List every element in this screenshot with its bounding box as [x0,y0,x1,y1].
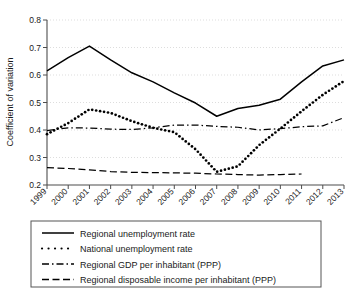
data-dot [194,148,197,151]
data-dot [49,131,52,134]
data-dot [331,87,334,90]
data-dot [235,165,238,168]
data-dot [60,125,63,128]
data-dot [271,134,274,137]
data-dot [261,141,264,144]
data-dot [250,152,253,155]
data-dot [168,130,171,133]
y-axis-title: Coefficient of variation [5,58,15,147]
data-dot [290,119,293,122]
data-dot [210,165,213,168]
data-dot [296,114,299,117]
data-dot [74,117,77,120]
data-dot [129,119,132,122]
chart-legend: Regional unemployment rate National unem… [31,221,321,287]
y-tick-label: 0.8 [29,15,41,25]
chart-figure: 0.8 0.7 0.6 0.5 0.4 0.3 0.2 Coefficient … [0,0,352,304]
data-dot [95,109,98,112]
data-dot [184,140,187,143]
data-dot [91,108,94,111]
data-dot [103,110,106,113]
data-dot [341,81,344,84]
data-dot [305,106,308,109]
data-dot [302,109,305,112]
data-dot [318,96,321,99]
data-dot [114,114,117,117]
data-dot [238,163,241,166]
legend-label: National unemployment rate [80,244,193,254]
legend-label: Regional GDP per inhabitant (PPP) [80,260,221,270]
data-dot [283,124,286,127]
data-dot [87,109,90,112]
data-dot [164,129,167,132]
legend-label: Regional disposable income per inhabitan… [80,275,276,285]
data-dot [122,116,125,119]
data-dot [172,131,175,134]
data-dot [144,124,147,127]
data-dot [265,138,268,141]
coefficient-of-variation-line-chart: 0.8 0.7 0.6 0.5 0.4 0.3 0.2 Coefficient … [0,0,352,304]
data-dot [258,143,261,146]
data-dot [63,124,66,127]
data-dot [328,89,331,92]
data-dot [334,85,337,88]
data-dot [160,128,163,131]
data-dot [247,155,250,158]
data-dot [253,149,256,152]
data-dot [175,133,178,136]
data-dot [241,160,244,163]
legend-label: Regional unemployment rate [80,229,195,239]
data-dot [118,115,121,118]
data-dot [202,156,205,159]
data-dot [156,127,159,130]
data-dot [255,146,258,149]
data-dot [224,168,227,171]
data-dot [125,118,128,121]
data-dot [111,112,114,115]
data-dot [141,123,144,126]
data-dot [84,111,87,114]
data-dot [137,122,140,125]
data-dot [227,167,230,170]
data-dot [315,99,318,102]
data-dot [191,145,194,148]
data-dot [178,135,181,138]
data-dot [99,110,102,113]
data-dot [187,143,190,146]
data-dot [80,113,83,116]
data-dot [213,168,216,171]
data-dot [231,166,234,169]
data-dot [308,104,311,107]
data-dot [67,122,70,125]
data-dot [199,153,202,156]
data-dot [321,94,324,97]
y-tick-label: 0.5 [29,98,41,108]
data-dot [207,162,210,165]
data-dot [70,120,73,123]
data-dot [268,136,271,139]
data-dot [244,157,247,160]
y-tick-label: 0.7 [29,43,41,53]
data-dot [220,169,223,172]
data-dot [287,121,290,124]
data-dot [133,121,136,124]
data-dot [274,131,277,134]
data-dot [338,83,341,86]
data-dot [77,115,80,118]
data-dot [312,101,315,104]
data-dot [299,111,302,114]
data-dot [107,111,110,114]
data-dot [46,133,49,136]
y-tick-label: 0.3 [29,153,41,163]
y-tick-label: 0.4 [29,125,41,135]
data-dot [197,150,200,153]
data-dot [324,92,327,95]
data-dot [205,159,208,162]
data-dot [181,138,184,141]
y-tick-label: 0.6 [29,70,41,80]
data-dot [216,170,219,173]
data-dot [293,116,296,119]
